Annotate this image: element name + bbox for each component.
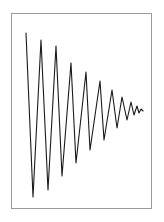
damped-oscillation-chart	[0, 0, 164, 222]
figure-root	[0, 0, 164, 222]
damped-oscillation-line	[26, 33, 143, 197]
